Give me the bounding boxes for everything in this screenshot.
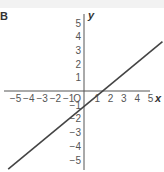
- chart: −5−4−3−2−11234554321−1−2−3−4−5Oxy: [0, 0, 164, 172]
- x-tick-label: −5: [10, 93, 22, 104]
- x-tick-label: 4: [134, 93, 140, 104]
- x-tick-label: −4: [23, 93, 35, 104]
- y-tick-label: −3: [70, 127, 82, 138]
- y-tick-label: 5: [75, 18, 81, 29]
- y-tick-label: 3: [75, 45, 81, 56]
- x-axis-label: x: [154, 92, 162, 104]
- y-tick-label: −4: [70, 141, 82, 152]
- x-tick-label: −2: [50, 93, 62, 104]
- x-tick-label: 3: [121, 93, 127, 104]
- x-tick-label: 2: [108, 93, 114, 104]
- y-tick-label: 1: [75, 72, 81, 83]
- y-tick-label: 2: [75, 59, 81, 70]
- data-line: [8, 42, 162, 169]
- y-tick-label: −2: [70, 113, 82, 124]
- y-tick-label: 4: [75, 31, 81, 42]
- origin-label: O: [73, 93, 81, 104]
- y-axis-label: y: [87, 9, 95, 21]
- x-tick-label: −3: [36, 93, 48, 104]
- y-tick-label: −5: [70, 155, 82, 166]
- x-tick-label: 5: [148, 93, 154, 104]
